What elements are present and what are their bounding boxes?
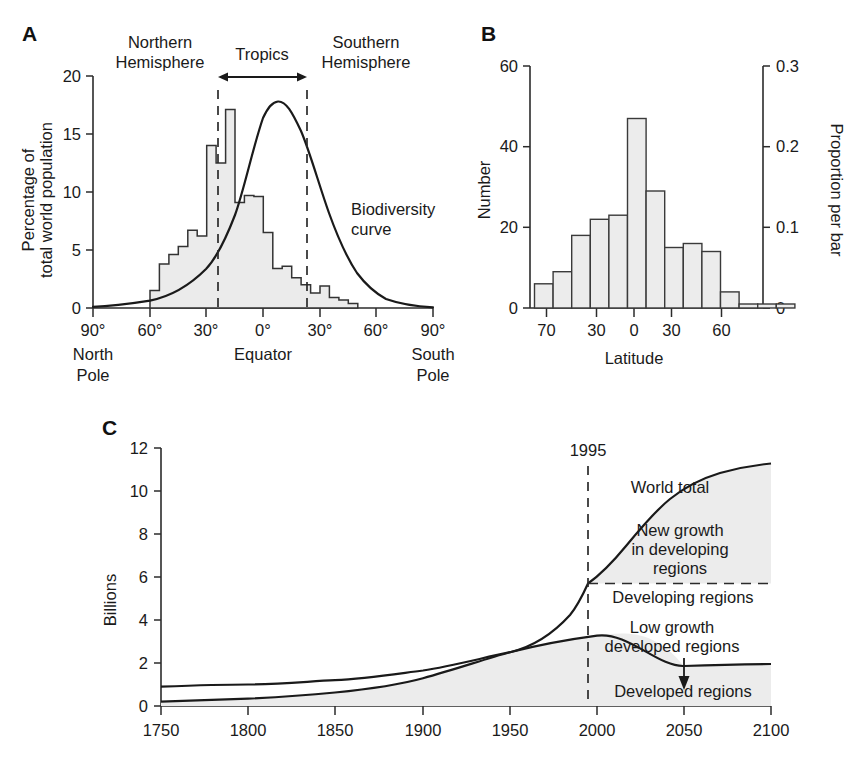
panel-c-ytick-6: 6 <box>139 568 148 586</box>
panel-b-ytick-right-02: 0.2 <box>776 137 799 155</box>
panel-a-annotation-northern-line1: Northern <box>128 33 192 51</box>
panel-c-chart: 0 2 4 6 8 10 12 Billions 1750 1800 1850 <box>80 400 856 762</box>
figure-population-biodiversity: A Percentage of total world population 0… <box>0 0 856 762</box>
panel-a-annotation-northern-line2: Hemisphere <box>116 53 205 71</box>
panel-a-xlabel-equator: Equator <box>234 345 292 363</box>
panel-a-letter: A <box>22 22 37 46</box>
panel-a-xtick-30s: 30° <box>308 321 333 339</box>
panel-b-xlabel: Latitude <box>605 349 664 367</box>
table-row <box>721 292 740 308</box>
panel-b-xtick-60s: 60 <box>712 321 730 339</box>
panel-c-xtick-1850: 1850 <box>317 721 354 739</box>
panel-c-label-low-growth-line2: developed regions <box>605 637 740 655</box>
panel-c-label-world-total: World total <box>631 478 710 496</box>
panel-a-x-ticks <box>93 308 433 317</box>
panel-b-ylabel-left: Number <box>475 160 493 219</box>
panel-c-y-ticks <box>154 448 161 706</box>
panel-b-ytick-left-40: 40 <box>500 137 518 155</box>
panel-a-annotation-southern-line1: Southern <box>333 33 400 51</box>
panel-a-y-ticks <box>86 76 93 308</box>
panel-c-xtick-2000: 2000 <box>579 721 616 739</box>
panel-c-xtick-1900: 1900 <box>405 721 442 739</box>
panel-c-ytick-10: 10 <box>130 482 148 500</box>
panel-c-ytick-2: 2 <box>139 654 148 672</box>
panel-c-xtick-1800: 1800 <box>230 721 267 739</box>
panel-c-xtick-2050: 2050 <box>666 721 703 739</box>
panel-a-xlabel-south-line2: Pole <box>416 366 449 384</box>
table-row <box>535 284 554 308</box>
panel-a-ylabel-line2: total world population <box>37 122 55 278</box>
table-row <box>739 304 758 308</box>
panel-a-ytick-5: 5 <box>72 241 81 259</box>
panel-c-ylabel: Billions <box>101 574 119 626</box>
panel-a-tropics-arrow <box>218 73 307 82</box>
panel-b-ytick-right-03: 0.3 <box>776 57 799 75</box>
table-row <box>553 272 572 308</box>
panel-b-chart: 0 20 40 60 Number 0 0.1 0.2 0.3 Proporti… <box>460 0 856 390</box>
table-row <box>572 235 591 308</box>
panel-a-ylabel: Percentage of total world population <box>19 122 55 278</box>
panel-c: C 0 2 4 6 8 10 12 <box>80 400 856 762</box>
panel-a-xtick-0: 0° <box>255 321 271 339</box>
panel-c-xtick-2100: 2100 <box>753 721 790 739</box>
panel-b-xtick-0: 0 <box>629 321 638 339</box>
panel-c-label-new-growth-line3: regions <box>653 559 707 577</box>
table-row <box>609 215 628 308</box>
panel-c-xtick-1750: 1750 <box>143 721 180 739</box>
panel-a-xlabel-north-line2: Pole <box>76 366 109 384</box>
panel-a-annotation-curve-line2: curve <box>351 220 391 238</box>
panel-b-xtick-70: 70 <box>537 321 555 339</box>
panel-c-x-ticks <box>161 706 771 715</box>
panel-a-annotation-southern-line2: Hemisphere <box>322 53 411 71</box>
panel-b-ytick-left-60: 60 <box>500 57 518 75</box>
panel-a-ytick-10: 10 <box>63 183 81 201</box>
table-row <box>776 304 795 308</box>
panel-a-annotation-tropics: Tropics <box>235 45 288 63</box>
table-row <box>683 244 702 309</box>
panel-c-ytick-8: 8 <box>139 525 148 543</box>
panel-c-ytick-0: 0 <box>139 697 148 715</box>
panel-a-xlabel-north-line1: North <box>73 345 113 363</box>
panel-c-label-new-growth-line1: New growth <box>636 521 723 539</box>
panel-c-letter: C <box>102 416 117 440</box>
panel-b-xtick-30n: 30 <box>587 321 605 339</box>
table-row <box>702 252 721 309</box>
panel-c-label-low-growth-line1: Low growth <box>630 618 714 636</box>
panel-b-letter: B <box>481 22 496 46</box>
panel-c-label-developing-regions: Developing regions <box>612 588 753 606</box>
table-row <box>646 191 665 308</box>
panel-c-label-new-growth-line2: in developing <box>631 540 728 558</box>
panel-a-ylabel-line1: Percentage of <box>19 148 37 251</box>
panel-a: A Percentage of total world population 0… <box>0 0 460 390</box>
table-row <box>665 248 684 309</box>
panel-b-bars <box>535 119 795 309</box>
panel-b-x-ticks <box>547 308 722 317</box>
table-row <box>628 119 647 309</box>
panel-c-marker-1995-label: 1995 <box>570 441 607 459</box>
panel-a-ytick-0: 0 <box>72 299 81 317</box>
panel-a-xtick-90s: 90° <box>421 321 446 339</box>
table-row <box>590 219 609 308</box>
panel-c-ytick-4: 4 <box>139 611 148 629</box>
panel-a-ytick-20: 20 <box>63 67 81 85</box>
panel-b-ytick-left-0: 0 <box>509 299 518 317</box>
panel-b: B 0 20 40 60 Number 0 0 <box>460 0 856 390</box>
panel-a-ytick-15: 15 <box>63 125 81 143</box>
panel-b-ytick-left-20: 20 <box>500 218 518 236</box>
table-row <box>758 304 777 308</box>
panel-b-ytick-right-01: 0.1 <box>776 218 799 236</box>
panel-b-xtick-30s: 30 <box>662 321 680 339</box>
panel-a-xtick-60s: 60° <box>364 321 389 339</box>
panel-a-chart: Percentage of total world population 0 5… <box>0 0 460 390</box>
panel-c-label-developed-regions: Developed regions <box>614 682 752 700</box>
panel-a-annotation-curve-line1: Biodiversity <box>351 200 436 218</box>
panel-c-xtick-1950: 1950 <box>492 721 529 739</box>
panel-a-xlabel-south-line1: South <box>411 345 454 363</box>
panel-b-ylabel-right: Proportion per bar <box>828 124 846 257</box>
panel-c-ytick-12: 12 <box>130 439 148 457</box>
panel-a-xtick-60n: 60° <box>138 321 163 339</box>
panel-a-xtick-30n: 30° <box>194 321 219 339</box>
panel-b-y-ticks-right <box>763 66 770 308</box>
panel-a-xtick-90n: 90° <box>81 321 106 339</box>
panel-b-y-ticks-left <box>523 66 530 308</box>
